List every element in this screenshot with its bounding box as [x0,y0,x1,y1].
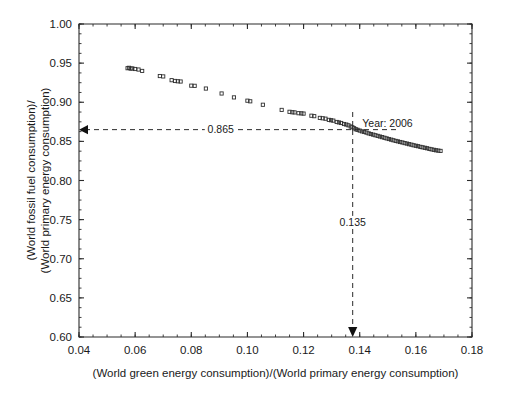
y-tick-label: 0.80 [50,175,72,187]
x-tick-label: 0.10 [236,344,258,356]
x-tick-label: 0.18 [461,344,483,356]
y-tick-label: 0.60 [50,331,72,343]
annotation-x-value-0135: 0.135 [340,216,366,228]
y-tick-label: 0.95 [50,57,72,69]
annotation-year-2006: Year: 2006 [362,117,413,129]
y-tick-label: 0.65 [50,292,72,304]
chart-figure: 0.040.060.080.100.120.140.160.18 0.600.6… [0,0,507,399]
y-axis-tick-labels: 0.600.650.700.750.800.850.900.951.00 [50,18,72,343]
x-tick-label: 0.14 [349,344,372,356]
y-tick-label: 0.90 [50,96,72,108]
y-tick-label: 0.70 [50,253,72,265]
scatter-plot-canvas: 0.040.060.080.100.120.140.160.18 0.600.6… [0,0,507,399]
x-tick-label: 0.12 [292,344,314,356]
x-tick-label: 0.08 [180,344,202,356]
y-tick-label: 0.75 [50,214,72,226]
y-axis-title-line-1: (World fossil fuel consumption)/ [25,100,37,261]
x-tick-label: 0.04 [68,344,91,356]
x-tick-label: 0.16 [405,344,427,356]
annotation-y-value-0865: 0.865 [208,123,234,135]
y-tick-label: 1.00 [50,18,72,30]
y-tick-label: 0.85 [50,135,72,147]
figure-background [0,0,507,399]
y-axis-title-line-2: (World primary energy consumption) [39,87,51,273]
x-tick-label: 0.06 [124,344,146,356]
x-axis-title: (World green energy consumption)/(World … [93,367,459,379]
